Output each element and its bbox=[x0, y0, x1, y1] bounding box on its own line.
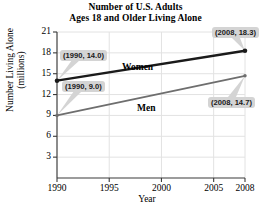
y-axis-tick-label: 9 bbox=[29, 110, 51, 120]
data-point-women-2008 bbox=[243, 48, 248, 53]
data-point-women-1990 bbox=[55, 78, 60, 83]
y-axis-tick-label: 18 bbox=[29, 48, 51, 58]
y-axis-tick-label: 21 bbox=[29, 27, 51, 37]
x-axis-tick-label: 1990 bbox=[37, 184, 77, 194]
data-point-men-1990 bbox=[55, 114, 58, 117]
y-axis-tick-label: 15 bbox=[29, 69, 51, 79]
annotation-men-start: (1990, 9.0) bbox=[62, 81, 105, 92]
annotation-men-end: (2008, 14.7) bbox=[208, 97, 255, 108]
x-axis-tick-label: 1995 bbox=[89, 184, 129, 194]
annotation-women-start: (1990, 14.0) bbox=[60, 50, 107, 61]
data-point-men-2008 bbox=[243, 74, 246, 77]
series-label-women: Women bbox=[122, 62, 153, 72]
y-axis-tick-label: 6 bbox=[29, 131, 51, 141]
x-axis-tick-label: 2000 bbox=[141, 184, 181, 194]
callout-tail bbox=[232, 38, 245, 51]
y-axis-tick-label: 3 bbox=[29, 152, 51, 162]
series-label-men: Men bbox=[137, 103, 155, 113]
y-axis-ticks bbox=[53, 32, 57, 157]
x-axis-ticks bbox=[57, 178, 245, 182]
y-axis-tick-label: 12 bbox=[29, 90, 51, 100]
annotation-women-end: (2008, 18.3) bbox=[212, 27, 259, 38]
chart-container: Number of U.S. Adults Ages 18 and Older … bbox=[0, 0, 271, 213]
x-axis-tick-label: 2008 bbox=[225, 184, 265, 194]
